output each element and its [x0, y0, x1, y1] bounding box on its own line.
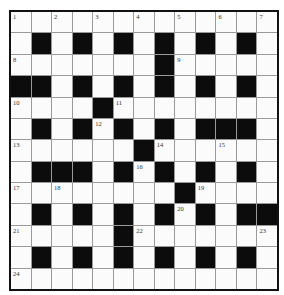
answer-cell[interactable]: 21 — [11, 226, 31, 246]
answer-cell[interactable] — [257, 140, 277, 160]
answer-cell[interactable] — [216, 269, 236, 289]
answer-cell[interactable] — [93, 183, 113, 203]
answer-cell[interactable] — [196, 12, 216, 32]
answer-cell[interactable] — [196, 140, 216, 160]
answer-cell[interactable] — [257, 269, 277, 289]
answer-cell[interactable] — [73, 55, 93, 75]
answer-cell[interactable] — [114, 140, 134, 160]
answer-cell[interactable] — [196, 55, 216, 75]
answer-cell[interactable] — [73, 12, 93, 32]
answer-cell[interactable] — [52, 247, 72, 267]
answer-cell[interactable] — [175, 247, 195, 267]
answer-cell[interactable]: 20 — [175, 204, 195, 224]
answer-cell[interactable]: 17 — [11, 183, 31, 203]
answer-cell[interactable]: 12 — [93, 119, 113, 139]
answer-cell[interactable] — [216, 204, 236, 224]
answer-cell[interactable] — [93, 76, 113, 96]
answer-cell[interactable]: 16 — [134, 162, 154, 182]
answer-cell[interactable] — [52, 76, 72, 96]
answer-cell[interactable] — [175, 162, 195, 182]
answer-cell[interactable] — [52, 98, 72, 118]
answer-cell[interactable] — [73, 98, 93, 118]
answer-cell[interactable] — [175, 33, 195, 53]
answer-cell[interactable] — [216, 33, 236, 53]
answer-cell[interactable] — [196, 226, 216, 246]
answer-cell[interactable] — [257, 33, 277, 53]
answer-cell[interactable]: 15 — [216, 140, 236, 160]
answer-cell[interactable] — [237, 55, 257, 75]
answer-cell[interactable] — [52, 204, 72, 224]
answer-cell[interactable] — [216, 162, 236, 182]
answer-cell[interactable] — [175, 226, 195, 246]
answer-cell[interactable] — [32, 12, 52, 32]
answer-cell[interactable] — [32, 269, 52, 289]
answer-cell[interactable] — [155, 269, 175, 289]
answer-cell[interactable] — [216, 98, 236, 118]
answer-cell[interactable] — [114, 269, 134, 289]
answer-cell[interactable] — [237, 140, 257, 160]
answer-cell[interactable] — [93, 204, 113, 224]
answer-cell[interactable] — [175, 140, 195, 160]
answer-cell[interactable] — [32, 98, 52, 118]
answer-cell[interactable] — [52, 55, 72, 75]
answer-cell[interactable] — [134, 76, 154, 96]
answer-cell[interactable] — [175, 119, 195, 139]
answer-cell[interactable] — [11, 204, 31, 224]
answer-cell[interactable] — [155, 226, 175, 246]
answer-cell[interactable] — [32, 183, 52, 203]
answer-cell[interactable] — [196, 269, 216, 289]
answer-cell[interactable] — [134, 204, 154, 224]
answer-cell[interactable] — [52, 269, 72, 289]
answer-cell[interactable] — [11, 162, 31, 182]
answer-cell[interactable] — [134, 98, 154, 118]
answer-cell[interactable] — [237, 98, 257, 118]
answer-cell[interactable] — [196, 98, 216, 118]
answer-cell[interactable] — [257, 55, 277, 75]
answer-cell[interactable] — [216, 247, 236, 267]
answer-cell[interactable] — [93, 247, 113, 267]
answer-cell[interactable] — [52, 140, 72, 160]
answer-cell[interactable] — [93, 226, 113, 246]
answer-cell[interactable] — [73, 269, 93, 289]
answer-cell[interactable] — [237, 269, 257, 289]
answer-cell[interactable] — [175, 98, 195, 118]
answer-cell[interactable] — [52, 119, 72, 139]
answer-cell[interactable] — [114, 12, 134, 32]
answer-cell[interactable] — [216, 183, 236, 203]
answer-cell[interactable]: 24 — [11, 269, 31, 289]
answer-cell[interactable]: 22 — [134, 226, 154, 246]
answer-cell[interactable]: 3 — [93, 12, 113, 32]
answer-cell[interactable] — [11, 247, 31, 267]
answer-cell[interactable] — [134, 33, 154, 53]
answer-cell[interactable] — [73, 183, 93, 203]
answer-cell[interactable]: 6 — [216, 12, 236, 32]
answer-cell[interactable] — [155, 98, 175, 118]
answer-cell[interactable] — [257, 76, 277, 96]
answer-cell[interactable] — [175, 269, 195, 289]
answer-cell[interactable] — [216, 226, 236, 246]
answer-cell[interactable] — [93, 269, 113, 289]
answer-cell[interactable] — [155, 183, 175, 203]
answer-cell[interactable]: 19 — [196, 183, 216, 203]
answer-cell[interactable] — [257, 247, 277, 267]
answer-cell[interactable] — [32, 140, 52, 160]
answer-cell[interactable] — [134, 55, 154, 75]
answer-cell[interactable]: 14 — [155, 140, 175, 160]
answer-cell[interactable] — [114, 183, 134, 203]
answer-cell[interactable] — [237, 183, 257, 203]
answer-cell[interactable] — [52, 226, 72, 246]
answer-cell[interactable] — [32, 55, 52, 75]
answer-cell[interactable] — [216, 76, 236, 96]
answer-cell[interactable]: 18 — [52, 183, 72, 203]
answer-cell[interactable] — [257, 98, 277, 118]
answer-cell[interactable]: 23 — [257, 226, 277, 246]
answer-cell[interactable] — [155, 12, 175, 32]
answer-cell[interactable]: 2 — [52, 12, 72, 32]
answer-cell[interactable]: 11 — [114, 98, 134, 118]
answer-cell[interactable] — [134, 269, 154, 289]
answer-cell[interactable] — [114, 55, 134, 75]
answer-cell[interactable] — [237, 12, 257, 32]
answer-cell[interactable]: 1 — [11, 12, 31, 32]
answer-cell[interactable]: 4 — [134, 12, 154, 32]
answer-cell[interactable] — [257, 183, 277, 203]
